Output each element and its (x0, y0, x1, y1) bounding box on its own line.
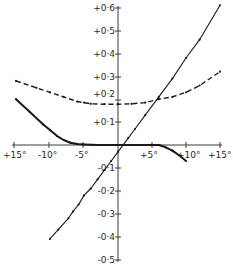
data-point-marker (185, 160, 187, 162)
chart: +15° -10° -5° +5° +10° +15° +0·6 +0·5 +0… (0, 0, 233, 270)
x-tick-label: -10° (38, 150, 57, 160)
data-point-marker (90, 103, 92, 105)
data-point-marker (137, 144, 139, 146)
data-point-marker (219, 4, 221, 6)
x-tick-label: +15° (208, 150, 232, 160)
y-tick-label: +0·2 (93, 89, 115, 99)
data-point-marker (171, 96, 173, 98)
y-tick-label: -0·5 (97, 255, 115, 265)
y-tick-label: -0·4 (97, 232, 115, 242)
data-point-marker (144, 114, 146, 116)
data-point-marker (83, 102, 85, 104)
data-point-marker (63, 139, 65, 141)
data-point-marker (110, 144, 112, 146)
y-tick-label: -0·2 (97, 186, 115, 196)
data-point-marker (29, 111, 31, 113)
data-point-marker (124, 144, 126, 146)
data-point-marker (171, 78, 173, 80)
data-point-marker (127, 137, 129, 139)
data-point-marker (72, 210, 74, 212)
data-point-marker (69, 142, 71, 144)
data-point-marker (117, 144, 119, 146)
x-tick-label: -5° (75, 150, 88, 160)
data-point-marker (219, 71, 221, 73)
straight-line (49, 4, 221, 240)
data-point-marker (199, 39, 201, 41)
data-point-marker (90, 187, 92, 189)
y-tick-label: +0·5 (93, 26, 115, 36)
data-point-marker (15, 80, 17, 82)
data-point-marker (63, 96, 65, 98)
y-tick-label: +0·3 (93, 72, 115, 82)
y-tick-label: +0·4 (93, 49, 115, 59)
data-point-marker (131, 103, 133, 105)
data-point-marker (56, 135, 58, 137)
y-tick-label: +0·6 (93, 3, 115, 13)
data-point-marker (15, 98, 17, 100)
data-point-marker (185, 91, 187, 93)
y-tick-labels: +0·6 +0·5 +0·4 +0·3 +0·2 +0·1 -0·1 -0·2 … (93, 3, 115, 265)
data-point-marker (117, 103, 119, 105)
data-point-marker (49, 238, 51, 240)
data-point-marker (110, 160, 112, 162)
data-point-marker (117, 151, 119, 153)
data-point-marker (131, 144, 133, 146)
data-point-marker (165, 146, 167, 148)
data-point-marker (103, 169, 105, 171)
x-tick-label: +5° (140, 150, 158, 160)
data-point-marker (42, 123, 44, 125)
data-point-marker (103, 144, 105, 146)
data-point-marker (78, 203, 80, 205)
data-point-marker (178, 154, 180, 156)
data-point-marker (83, 194, 85, 196)
y-tick-label: -0·3 (97, 209, 115, 219)
x-tick-label: +15° (3, 150, 27, 160)
y-tick-label: +0·1 (93, 117, 115, 127)
data-point-marker (67, 217, 69, 219)
data-point-marker (76, 143, 78, 145)
data-point-marker (57, 229, 59, 231)
data-point-marker (151, 144, 153, 146)
data-point-marker (103, 103, 105, 105)
data-point-marker (171, 150, 173, 152)
data-point-marker (158, 144, 160, 146)
data-point-marker (83, 143, 85, 145)
data-point-marker (97, 178, 99, 180)
data-point-marker (185, 57, 187, 59)
data-point-marker (144, 102, 146, 104)
data-point-marker (199, 84, 201, 86)
data-point-marker (144, 144, 146, 146)
data-point-marker (158, 98, 160, 100)
straight-line-path (50, 5, 220, 239)
data-point-marker (49, 129, 51, 131)
data-point-marker (134, 128, 136, 130)
data-point-marker (158, 96, 160, 98)
x-tick-label: +10° (177, 150, 201, 160)
data-point-marker (76, 100, 78, 102)
data-point-marker (90, 144, 92, 146)
data-point-marker (35, 87, 37, 89)
data-point-marker (49, 91, 51, 93)
data-point-marker (97, 144, 99, 146)
